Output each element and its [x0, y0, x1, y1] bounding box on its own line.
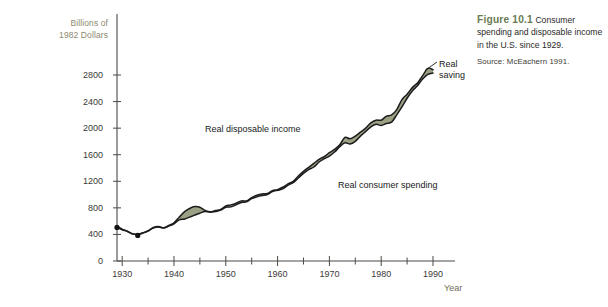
label-real-consumer-spending: Real consumer spending	[338, 180, 438, 190]
y-tick-label: 400	[47, 229, 103, 239]
x-tick-label: 1940	[164, 269, 184, 279]
x-tick-label: 1960	[268, 269, 288, 279]
y-tick-label: 800	[47, 203, 103, 213]
figure-caption: Figure 10.1 Consumer spending and dispos…	[477, 14, 603, 66]
y-tick-label: 1600	[47, 150, 103, 160]
x-tick-label: 1970	[319, 269, 339, 279]
label-real-saving-line2: saving	[439, 70, 465, 80]
start-point-marker	[114, 225, 119, 230]
figure-10-1: Billions of 1982 Dollars Real disposable…	[0, 0, 608, 307]
x-tick-label: 1990	[423, 269, 443, 279]
real-consumer-spending-line	[117, 73, 433, 235]
y-tick-label: 0	[47, 256, 103, 266]
label-real-disposable-income: Real disposable income	[205, 124, 301, 134]
chart-plot-area: Billions of 1982 Dollars Real disposable…	[0, 0, 468, 307]
trough-point-marker	[135, 233, 140, 238]
real-disposable-income-line	[117, 68, 433, 234]
label-real-saving: Real saving	[439, 59, 465, 81]
y-tick-label: 1200	[47, 176, 103, 186]
x-tick-label: 1950	[216, 269, 236, 279]
y-tick-label: 2800	[47, 70, 103, 80]
figure-caption-body: Figure 10.1 Consumer spending and dispos…	[477, 14, 603, 51]
x-tick-label: 1930	[112, 269, 132, 279]
y-tick-label: 2400	[47, 97, 103, 107]
label-real-saving-line1: Real	[439, 59, 458, 69]
figure-source: Source: McEachern 1991.	[477, 57, 603, 66]
x-tick-label: 1980	[371, 269, 391, 279]
x-axis-title: Year	[444, 283, 462, 293]
figure-number: Figure 10.1	[477, 14, 533, 25]
y-tick-label: 2000	[47, 123, 103, 133]
saving-band-area	[117, 68, 433, 234]
